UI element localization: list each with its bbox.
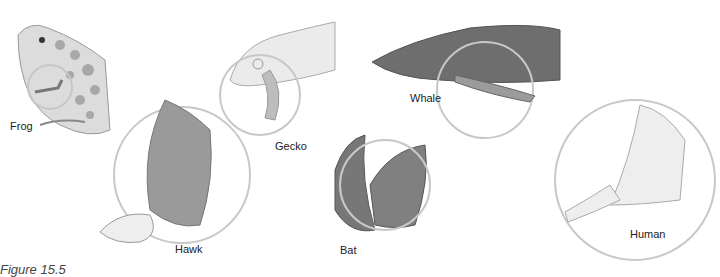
frog-illustration bbox=[18, 25, 110, 134]
label-hawk: Hawk bbox=[175, 243, 203, 255]
whale-illustration bbox=[372, 25, 560, 138]
hawk-illustration bbox=[100, 100, 250, 243]
label-bat: Bat bbox=[340, 244, 357, 256]
gecko-illustration bbox=[220, 22, 335, 135]
label-frog: Frog bbox=[10, 120, 33, 132]
bat-illustration bbox=[335, 135, 430, 231]
figure-caption: Figure 15.5 bbox=[0, 262, 66, 277]
label-gecko: Gecko bbox=[275, 140, 307, 152]
label-whale: Whale bbox=[410, 92, 441, 104]
label-human: Human bbox=[630, 228, 665, 240]
